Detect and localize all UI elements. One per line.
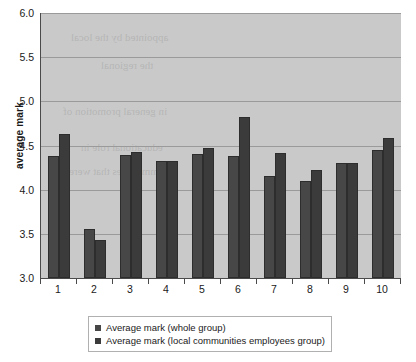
bar [347, 163, 358, 278]
bar [372, 150, 383, 278]
bar [300, 181, 311, 278]
bar [156, 161, 167, 278]
bar-group [113, 13, 149, 278]
bar [95, 240, 106, 278]
x-axis-tick-label: 5 [184, 283, 220, 295]
bar-group [185, 13, 221, 278]
bar [203, 148, 214, 278]
bar [239, 117, 250, 278]
bar [131, 152, 142, 278]
x-axis-tick-mark [400, 279, 401, 284]
bar [311, 170, 322, 278]
x-axis-tick-label: 6 [220, 283, 256, 295]
y-axis-tick-label: 5.5 [8, 51, 34, 63]
bar [84, 229, 95, 278]
x-axis-tick-label: 2 [76, 283, 112, 295]
legend-swatch [95, 325, 101, 331]
bar-group [221, 13, 257, 278]
y-axis-tick-label: 5.0 [8, 95, 34, 107]
x-axis-tick-label: 1 [40, 283, 76, 295]
legend-swatch [95, 338, 101, 344]
x-axis-tick-label: 3 [112, 283, 148, 295]
y-axis-tick-label: 4.5 [8, 140, 34, 152]
bar-chart-figure: average mark 6.05.55.04.54.03.53.0 appoi… [0, 0, 416, 362]
x-axis-tick-label: 7 [256, 283, 292, 295]
bar [264, 176, 275, 278]
chart-legend: Average mark (whole group)Average mark (… [88, 316, 332, 352]
x-axis-tick-label: 10 [364, 283, 400, 295]
plot-inner: appointed by the localthe regionalin gen… [41, 13, 401, 278]
bar [383, 138, 394, 278]
bar-group [329, 13, 365, 278]
bar [167, 161, 178, 278]
bar-group [149, 13, 185, 278]
bar [192, 154, 203, 278]
y-axis-tick-labels: 6.05.55.04.54.03.53.0 [4, 0, 34, 362]
legend-item: Average mark (local communities employee… [95, 334, 325, 347]
y-axis-tick-label: 4.0 [8, 184, 34, 196]
x-axis-tick-label: 8 [292, 283, 328, 295]
legend-item: Average mark (whole group) [95, 321, 325, 334]
bar-group [257, 13, 293, 278]
bar-group [77, 13, 113, 278]
x-axis-tick-labels: 12345678910 [40, 283, 400, 295]
y-axis-tick-label: 3.0 [8, 272, 34, 284]
bar [120, 155, 131, 278]
bar-groups [41, 13, 401, 278]
bar-group [293, 13, 329, 278]
x-axis-tick-label: 4 [148, 283, 184, 295]
bar [228, 156, 239, 278]
bar [275, 153, 286, 278]
bar [336, 163, 347, 278]
legend-label: Average mark (local communities employee… [106, 335, 325, 346]
y-axis-tick-label: 3.5 [8, 228, 34, 240]
bar-group [365, 13, 401, 278]
y-axis-tick-label: 6.0 [8, 7, 34, 19]
x-axis-tick-label: 9 [328, 283, 364, 295]
bar-group [41, 13, 77, 278]
bar [48, 156, 59, 278]
legend-label: Average mark (whole group) [106, 322, 226, 333]
plot-area: appointed by the localthe regionalin gen… [40, 13, 401, 279]
bar [59, 134, 70, 278]
